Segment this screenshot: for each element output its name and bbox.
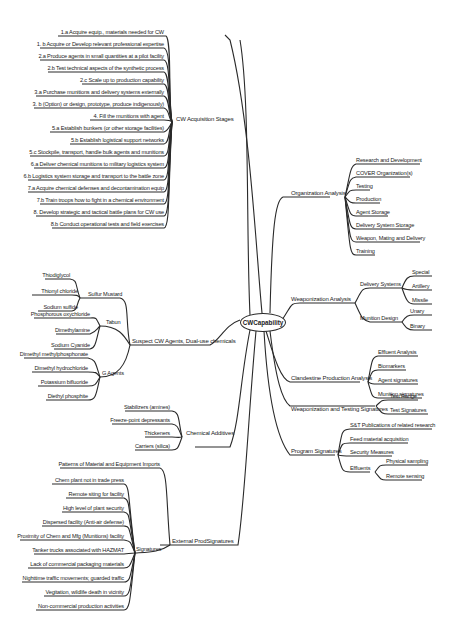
acquisition-item: 2.c Scale up to production capability [80, 77, 164, 84]
delivery-item: Artillery [412, 283, 429, 290]
root-node: CWCapability [240, 313, 286, 332]
agent-item: Sodium Cyanide [51, 342, 90, 349]
branch-cw-acquisition-stages: CW Acquisition Stages [176, 116, 234, 123]
additive-item: Carriers (silica) [135, 443, 170, 450]
acquisition-item: 3.a Purchase munitions and delivery syst… [34, 89, 164, 96]
acquisition-item: 1.a Acquire equip., materials needed for… [61, 29, 164, 36]
organization-item: Production [356, 196, 381, 203]
signature-item: Dispersed facility (Anti-air defense) [43, 519, 124, 526]
program-item: S&T Publications of related research [350, 422, 435, 429]
agent-item: Diethyl phosphite [48, 393, 88, 400]
mind-map: CWCapability CW Acquisition Stages 1.a A… [0, 0, 456, 637]
signature-item: Proximity of Chem and Mfg (Munitions) fa… [17, 533, 124, 540]
organization-item: COVER Organization(s) [356, 170, 413, 177]
branch-weaponization-analysis: Weaponization Analysis [291, 296, 351, 303]
acquisition-item: 8. Develop strategic and tactical battle… [34, 209, 164, 216]
munition-design: Munition Design [360, 315, 398, 322]
acquisition-item: 7.a Acquire chemical defenses and decont… [28, 185, 164, 192]
additive-item: Stabilizers (amines) [124, 404, 170, 411]
acquisition-item: 5.c Stockpile, transport, handle bulk ag… [29, 149, 164, 156]
branch-weaponization-testing-signatures: Weaponization and Testing Signatures [291, 406, 388, 413]
agent-item: Sodium sulfide [43, 304, 78, 311]
acquisition-item: 6.a Deliver chemical munitions to milita… [31, 161, 164, 168]
agent-item: Thiodiglycol [42, 272, 70, 279]
agent-item: Potassium bifluoride [41, 379, 88, 386]
organization-item: Weapon, Mating and Delivery [356, 235, 425, 242]
signature-item: Chem plant not in trade press [55, 477, 124, 484]
delivery-item: Special [412, 269, 429, 276]
testing-item: Test Signatures [390, 407, 426, 414]
branch-organization-analysis: Organization Analysis [291, 190, 346, 197]
signature-item: Remote siting for facility [69, 491, 124, 498]
agent-item: Dimethyl hydrochloride [34, 365, 88, 372]
organization-item: Research and Development [356, 157, 422, 164]
program-item: Security Measures [350, 449, 394, 456]
munition-item: Unary [410, 308, 424, 315]
program-item: Feed material acquisition [350, 436, 408, 443]
clandestine-item: Effluent Analysis [378, 349, 416, 356]
acquisition-item: 1. b Acquire or Develop relevant profess… [37, 41, 164, 48]
branch-program-signatures: Program Signatures [291, 448, 342, 455]
additive-item: Thickeners [144, 430, 170, 437]
organization-item: Agent Storage [356, 209, 390, 216]
branch-suspect-cw-agents: Suspect CW Agents, Dual-use chemicals [132, 338, 236, 345]
signature-item: High level of plant security [63, 505, 124, 512]
acquisition-item: 2.a Produce agents in small quantities a… [38, 53, 164, 60]
signatures-group: Signatures [136, 546, 161, 553]
effluent-item: Remote sensing [386, 473, 424, 480]
root-label: CWCapability [243, 319, 284, 326]
signature-item: Tanker trucks associated with HAZMAT [32, 547, 124, 554]
acquisition-item: 4. Fill the munitions with agent [94, 113, 164, 120]
acquisition-item: 3. b (Option) or design, prototype, prod… [33, 101, 164, 108]
signature-item: Nighttime traffic movements; guarded tra… [23, 575, 124, 582]
acquisition-item: 7.b Train troops how to fight in a chemi… [37, 197, 164, 204]
delivery-item: Missile [412, 297, 428, 304]
agent-item: Dimethylamine [55, 327, 90, 334]
munition-item: Binary [410, 323, 425, 330]
agent-item: Thionyl chloride [41, 288, 78, 295]
effluents-group: Effluents [350, 465, 370, 472]
agent-item: Dimethyl methylphosphonate [20, 351, 88, 358]
organization-item: Training [356, 248, 375, 255]
branch-external-prod-signatures: External ProdSignatures [172, 538, 234, 545]
signature-item: Vegitation, wildlife death in vicinity [45, 589, 124, 596]
additive-item: Freeze-point depressants [110, 417, 170, 424]
signature-item: Non-commercial production activities [38, 603, 124, 610]
effluent-item: Physical sampling [386, 458, 428, 465]
organization-item: Delivery System Storage [356, 222, 414, 229]
clandestine-item: Agent signatures [378, 377, 418, 384]
agent-group-tabun: Tabun [106, 319, 121, 326]
acquisition-item: 8.b Conduct operational tests and field … [51, 221, 164, 228]
branch-clandestine-production: Clandestine Production Analysis [291, 375, 372, 382]
agent-group-sulfur-mustard: Sulfur Mustard [88, 291, 122, 298]
testing-item: Test Range [390, 393, 417, 400]
acquisition-item: 6.b Logistics system storage and transpo… [24, 173, 164, 180]
acquisition-item: 5.a Establish bunkers (or other storage … [52, 125, 164, 132]
delivery-systems: Delivery Systems [360, 281, 401, 288]
acquisition-item: 5.b Establish logistical support network… [71, 137, 164, 144]
branch-chemical-additives: Chemical Additives [186, 430, 234, 437]
clandestine-item: Biomarkers [378, 363, 405, 370]
agent-item: Phosphorous oxychloride [31, 311, 90, 318]
patterns-imports: Patterns of Material and Equipment Impor… [58, 461, 160, 468]
organization-item: Testing [356, 183, 373, 190]
acquisition-item: 2.b Test technical aspects of the synthe… [47, 65, 164, 72]
agent-group-g-agents: G Agents [102, 370, 124, 377]
signature-item: Lack of commercial packaging materials [30, 561, 124, 568]
